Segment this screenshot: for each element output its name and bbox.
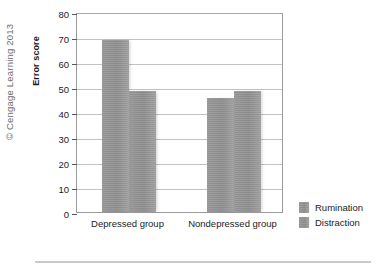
x-axis-category-label: Depressed group [91, 218, 164, 229]
chart-legend: RuminationDistraction [299, 200, 363, 230]
copyright-notice: © Cengage Learning 2013 [4, 10, 15, 140]
bar [102, 40, 129, 213]
y-axis-tick-label: 70 [47, 34, 69, 45]
legend-item: Rumination [299, 200, 363, 215]
y-axis-tick-mark [72, 139, 77, 140]
bar [129, 91, 156, 212]
legend-swatch-icon [299, 202, 309, 213]
bar [207, 98, 234, 212]
y-axis-tick-mark [72, 64, 77, 65]
y-axis-tick-mark [72, 14, 77, 15]
y-axis-tick-mark [72, 114, 77, 115]
y-axis-tick-label: 30 [47, 134, 69, 145]
legend-item: Distraction [299, 215, 363, 230]
y-axis-tick-label: 20 [47, 159, 69, 170]
legend-swatch-icon [299, 217, 309, 228]
figure-bottom-rule [35, 261, 371, 263]
y-axis-label: Error score [31, 16, 41, 106]
y-axis-tick-label: 0 [47, 209, 69, 220]
y-axis-tick-label: 50 [47, 84, 69, 95]
y-axis-tick-label: 40 [47, 109, 69, 120]
y-axis-tick-label: 60 [47, 59, 69, 70]
y-axis-tick-label: 80 [47, 9, 69, 20]
y-axis-tick-mark [72, 164, 77, 165]
plot-area: 01020304050607080 [76, 13, 283, 213]
x-axis-category-label: Nondepressed group [188, 218, 277, 229]
y-axis-tick-label: 10 [47, 184, 69, 195]
y-axis-tick-mark [72, 189, 77, 190]
y-axis-tick-mark [72, 39, 77, 40]
y-axis-tick-mark [72, 89, 77, 90]
legend-label: Distraction [315, 217, 360, 228]
legend-label: Rumination [315, 202, 363, 213]
y-axis-tick-mark [72, 214, 77, 215]
bar [234, 91, 261, 212]
